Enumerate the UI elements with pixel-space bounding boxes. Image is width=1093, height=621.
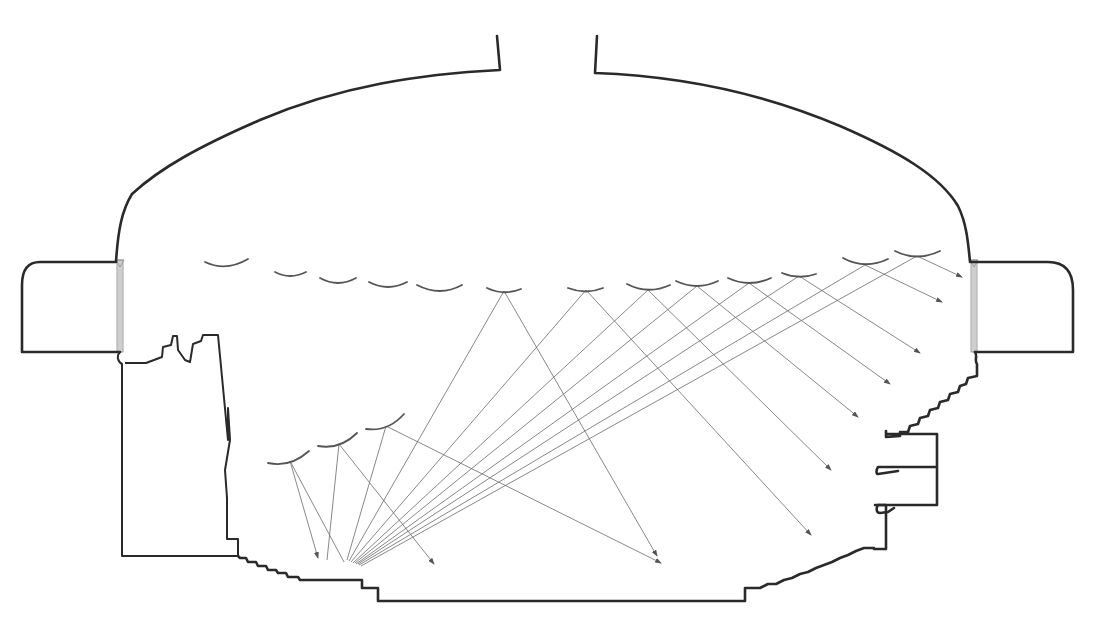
ceiling-reflector-panel [320, 278, 356, 283]
lower-reflector-panel [268, 451, 309, 464]
ceiling-reflector-panel [487, 288, 521, 292]
side-windows [116, 260, 978, 352]
ceiling-reflector-panel [568, 288, 603, 292]
sound-ray [358, 276, 799, 564]
ceiling-reflector-panel [728, 278, 771, 283]
right-balconies-outline [877, 352, 978, 513]
sound-ray [749, 283, 890, 384]
lower-reflector-panel [318, 433, 357, 447]
sound-rays [290, 256, 962, 566]
sound-ray [347, 426, 386, 560]
ceiling-reflector-panel [275, 272, 306, 276]
ceiling-reflector-panel [417, 285, 462, 291]
roof-left-outline [22, 36, 500, 352]
ceiling-reflector-panel [369, 282, 407, 287]
ceiling-reflector-panel [895, 251, 940, 257]
sound-ray [327, 444, 339, 560]
sound-ray [917, 256, 962, 277]
ceiling-reflector-panel [676, 281, 718, 286]
sound-ray [697, 286, 858, 417]
sound-ray [355, 286, 697, 563]
left-tower-outline [118, 335, 238, 556]
lower-reflector-panel [366, 414, 404, 429]
stepped-floor-outline [238, 505, 886, 601]
building-shell [22, 36, 1073, 601]
sound-ray [290, 461, 318, 558]
roof-right-outline [595, 36, 1073, 352]
ceiling-reflector-panel [843, 258, 888, 264]
sound-ray [349, 291, 504, 561]
left-window [116, 260, 124, 352]
right-window [970, 260, 978, 352]
ceiling-reflector-panel [627, 284, 670, 290]
ceiling-reflector-panel [205, 259, 248, 266]
sound-ray [865, 265, 942, 302]
lower-reflectors [268, 414, 404, 464]
sound-ray [339, 444, 434, 564]
auditorium-section-diagram [0, 0, 1093, 621]
section-drawing [0, 0, 1093, 621]
sound-ray [361, 256, 917, 566]
sound-ray [799, 276, 920, 353]
sound-ray [648, 290, 831, 470]
sound-ray [353, 290, 648, 563]
sound-ray [356, 283, 749, 564]
ceiling-reflector-panel [782, 273, 816, 277]
sound-ray [359, 265, 865, 565]
sound-ray [586, 290, 811, 535]
